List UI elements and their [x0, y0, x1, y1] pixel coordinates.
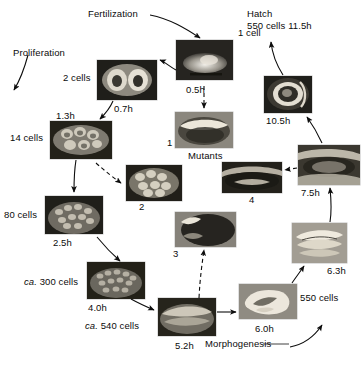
count-three-hundred: 300 cells [37, 276, 78, 287]
micrograph-mutant-4 [222, 162, 282, 193]
ca-prefix-three-hundred: ca. [24, 276, 37, 287]
arrow-six-three-to-seven-five [330, 188, 331, 222]
label-time-4-0h: 4.0h [88, 302, 107, 313]
ca-prefix-five-forty: ca. [85, 320, 98, 331]
micrograph-mutant-1 [175, 112, 233, 148]
arrow-proliferation [14, 55, 28, 90]
label-hatch: Hatch [247, 8, 272, 19]
arrow-mutant-3 [199, 250, 204, 298]
label-six-three-cells-count: 550 cells [300, 292, 338, 303]
arrow-morphogenesis [290, 325, 322, 347]
arrow-two-to-fourteen-cells [100, 101, 113, 119]
label-time-6-0h: 6.0h [255, 323, 274, 334]
arrow-one-to-two-cells [160, 60, 176, 70]
label-time-0-7h: 0.7h [114, 103, 133, 114]
micrograph-one-cell [176, 40, 233, 80]
micrograph-two-cells [97, 60, 157, 100]
label-eighty-cells-count: 80 cells [4, 209, 37, 220]
label-time-2-5h: 2.5h [53, 237, 72, 248]
label-fertilization: Fertilization [88, 8, 138, 19]
arrow-fertilization [150, 15, 200, 38]
micrograph-fourteen-cells [50, 121, 112, 159]
development-cycle-figure: Fertilization Proliferation Hatch 550 ce… [0, 0, 364, 370]
arrow-three-hundred-to-five-forty [131, 299, 154, 310]
label-mutant-1-number: 1 [167, 137, 172, 148]
arrow-eighty-to-three-hundred [97, 237, 120, 261]
micrograph-six-hour [239, 284, 297, 319]
micrograph-eighty-cells [45, 196, 103, 234]
label-mutant-2-number: 2 [139, 201, 144, 212]
micrograph-six-three-hour [292, 223, 347, 263]
micrograph-mutant-3 [175, 212, 236, 247]
label-time-5-2h: 5.2h [175, 340, 194, 351]
count-five-forty: 540 cells [98, 320, 139, 331]
label-time-1-3h: 1.3h [56, 110, 75, 121]
label-mutant-4-number: 4 [249, 194, 254, 205]
label-mutant-3-number: 3 [173, 248, 178, 259]
arrow-ten-five-to-hatch [271, 42, 283, 75]
label-fourteen-cells-count: 14 cells [10, 132, 43, 143]
label-time-6-3h: 6.3h [327, 265, 346, 276]
label-proliferation: Proliferation [13, 47, 65, 58]
arrow-six-hour-to-six-three [292, 266, 304, 283]
arrow-mutant-2 [96, 163, 121, 183]
label-two-cells-count: 2 cells [63, 72, 91, 83]
arrow-seven-five-to-ten-five [307, 117, 322, 143]
micrograph-seven-five-hour [298, 145, 360, 185]
micrograph-mutant-2 [126, 165, 182, 201]
micrograph-ten-five-hour [264, 76, 312, 113]
label-mutants: Mutants [188, 150, 223, 161]
label-five-forty-cells-count: ca. 540 cells [85, 320, 139, 331]
micrograph-five-forty-cells [158, 298, 216, 336]
micrograph-three-hundred-cells [87, 262, 145, 299]
label-time-10-5h: 10.5h [266, 115, 290, 126]
label-three-hundred-cells-count: ca. 300 cells [24, 276, 78, 287]
arrow-fourteen-to-eighty-cells [74, 160, 76, 192]
label-time-7-5h: 7.5h [301, 187, 320, 198]
label-morphogenesis: Morphogenesis [205, 338, 271, 349]
label-time-0-5h: 0.5h [186, 84, 205, 95]
label-one-cell-count: 1 cell [238, 27, 261, 38]
arrow-mutant-4 [285, 168, 297, 170]
